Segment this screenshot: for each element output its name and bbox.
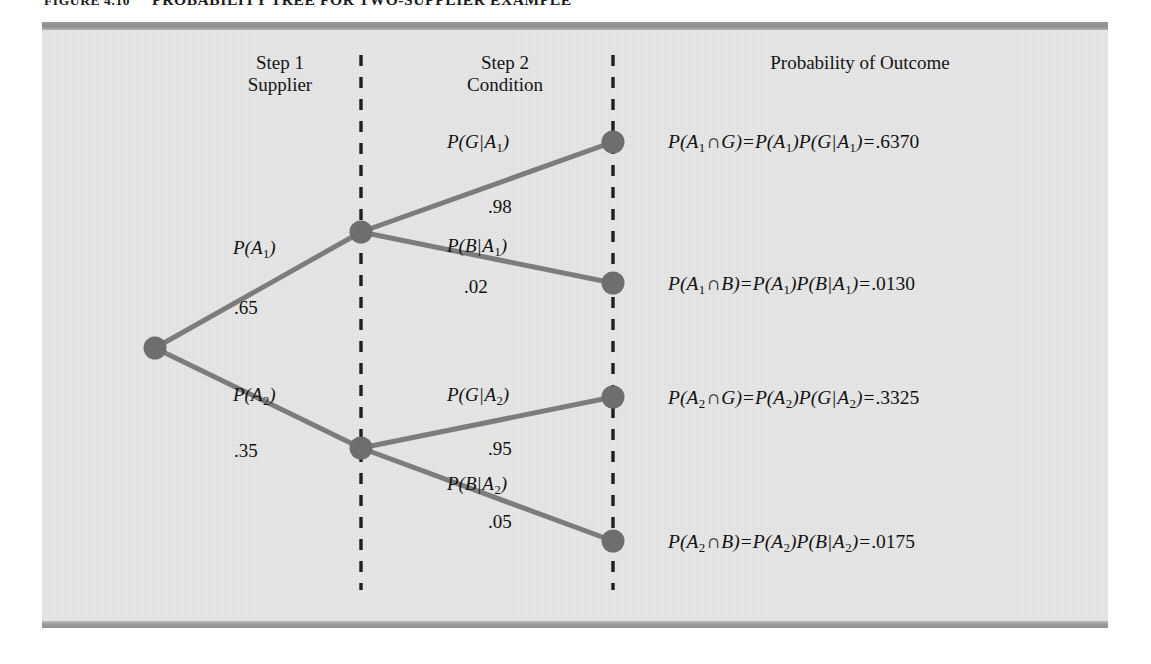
outcome-row-2: P(A1∩B)=P(A1)P(B|A1)=.0130 xyxy=(668,272,915,298)
branch-value-b-given-a1: .02 xyxy=(464,276,488,298)
branch-label-a1-symbol: P(A1) xyxy=(233,237,276,262)
branch-label-b-given-a1: P(B|A1) xyxy=(447,235,507,260)
branch-value-a1: .65 xyxy=(234,297,258,319)
branch-label-b-given-a2: P(B|A2) xyxy=(447,473,507,498)
column-header-step2: Step 2 Condition xyxy=(405,52,605,97)
branch-label-g-given-a2: P(G|A2) xyxy=(447,384,509,409)
branch-label-g-given-a1: P(G|A1) xyxy=(447,131,509,156)
branch-value-g-given-a1: .98 xyxy=(488,196,512,218)
branch-value-b-given-a2: .05 xyxy=(488,511,512,533)
plate-top-rule xyxy=(42,22,1108,30)
outcome-row-1: P(A1∩G)=P(A1)P(G|A1)=.6370 xyxy=(668,130,919,156)
outcome-row-4: P(A2∩B)=P(A2)P(B|A2)=.0175 xyxy=(668,530,915,556)
branch-value-g-given-a2: .95 xyxy=(488,438,512,460)
column-header-step1: Step 1 Supplier xyxy=(200,52,360,97)
plate-bottom-rule xyxy=(42,621,1108,628)
plate-field xyxy=(42,30,1108,621)
branch-value-a2: .35 xyxy=(234,440,258,462)
figure-title: PROBABILITY TREE FOR TWO-SUPPLIER EXAMPL… xyxy=(152,0,572,8)
figure-caption: FIGURE 4.10PROBABILITY TREE FOR TWO-SUPP… xyxy=(44,0,1104,9)
figure-plate xyxy=(42,22,1108,628)
outcome-row-3: P(A2∩G)=P(A2)P(G|A2)=.3325 xyxy=(668,386,919,412)
figure-number: FIGURE 4.10 xyxy=(44,0,130,8)
branch-label-a2-symbol: P(A2) xyxy=(233,384,276,409)
column-header-outcome: Probability of Outcome xyxy=(660,52,1060,74)
